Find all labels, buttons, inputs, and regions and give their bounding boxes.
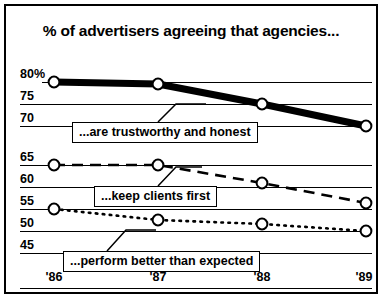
plot-area: 80% 75 70 65 60 55 50 45 '86 '87 '88 '89: [6, 6, 378, 294]
callout-trustworthy-honest: ...are trustworthy and honest: [72, 122, 258, 143]
leader-line-2: [158, 167, 202, 186]
chart-frame: % of advertisers agreeing that agencies.…: [4, 4, 378, 294]
leader-line-3: [107, 230, 156, 251]
leader-line-1: [158, 104, 206, 122]
callout-keep-clients-first: ...keep clients first: [94, 186, 217, 207]
callout-perform-better-than-expected: ...perform better than expected: [63, 251, 260, 272]
